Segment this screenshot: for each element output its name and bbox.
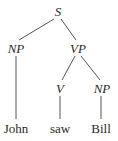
parse-tree: S NP VP V NP John saw Bill [0,0,118,141]
node-v: V [56,82,64,95]
node-vp: VP [70,42,86,55]
tree-edges [0,0,118,141]
node-np-object: NP [94,82,111,95]
leaf-saw: saw [50,122,70,135]
leaf-bill: Bill [91,122,111,135]
edge-vp-np [81,56,100,80]
leaf-john: John [4,122,29,135]
node-s: S [55,5,62,18]
edge-vp-v [62,56,75,80]
edge-s-vp [61,19,76,40]
node-np-subject: NP [8,42,25,55]
edge-s-np [19,19,54,40]
